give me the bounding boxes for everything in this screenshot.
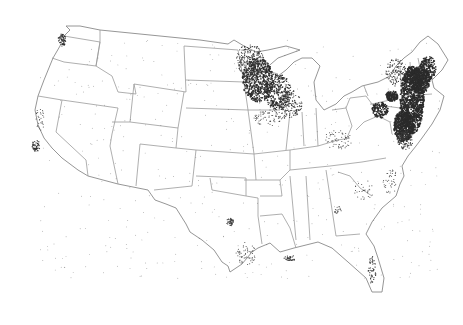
- us-outline: [35, 26, 448, 292]
- us-dot-density-map: [0, 0, 463, 325]
